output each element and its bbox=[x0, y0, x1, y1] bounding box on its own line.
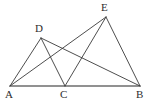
geometry-figure: ACBDE bbox=[0, 0, 159, 105]
vertex-label-a: A bbox=[5, 89, 13, 100]
segment-ec bbox=[65, 17, 106, 86]
vertex-label-b: B bbox=[136, 89, 143, 100]
segment-eb bbox=[106, 17, 140, 86]
segment-layer bbox=[10, 17, 140, 86]
segment-db bbox=[41, 38, 140, 86]
vertex-label-c: C bbox=[60, 89, 67, 100]
vertex-label-d: D bbox=[35, 23, 43, 34]
segment-ea bbox=[10, 17, 106, 86]
vertex-label-e: E bbox=[101, 2, 108, 13]
segment-da bbox=[10, 38, 41, 86]
segment-dc bbox=[41, 38, 65, 86]
